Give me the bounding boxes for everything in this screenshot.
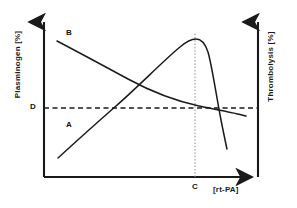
- chart-plot-area: [0, 0, 297, 208]
- x-axis-title: [rt-PA]: [213, 185, 239, 194]
- curve-label-b: B: [66, 28, 72, 37]
- chart-figure: Plasminogen [%] Thrombolysis [%] [rt-PA]…: [0, 0, 297, 208]
- y-axis-right-title: Thrombolysis [%]: [266, 19, 275, 115]
- x-axis-tick-c: C: [192, 182, 198, 191]
- curve-a-thrombolysis: [58, 39, 227, 158]
- curve-label-a: A: [66, 120, 72, 129]
- y-axis-tick-d: D: [30, 102, 36, 111]
- y-axis-left-title: Plasminogen [%]: [13, 17, 22, 113]
